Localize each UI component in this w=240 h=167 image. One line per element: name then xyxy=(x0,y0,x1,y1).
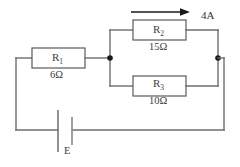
resistor-r2-value: 15Ω xyxy=(149,42,167,53)
resistor-r1-subscript: 1 xyxy=(59,57,63,66)
circuit-diagram: R1 6Ω R2 15Ω R3 10Ω 4A E xyxy=(0,0,240,167)
resistor-r3-value: 10Ω xyxy=(149,96,167,107)
current-value-label: 4A xyxy=(201,10,214,21)
resistor-r2-label: R2 xyxy=(153,24,164,38)
resistor-r2-subscript: 2 xyxy=(160,29,164,38)
junction-node-left xyxy=(107,55,113,61)
resistor-r3-subscript: 3 xyxy=(160,83,164,92)
resistor-r3-label: R3 xyxy=(153,78,164,92)
battery-emf-label: E xyxy=(64,146,70,157)
circuit-schematic-canvas xyxy=(0,0,240,167)
current-arrow-head xyxy=(180,8,190,16)
resistor-r1-label: R1 xyxy=(52,52,63,66)
resistor-r1-value: 6Ω xyxy=(50,70,63,81)
